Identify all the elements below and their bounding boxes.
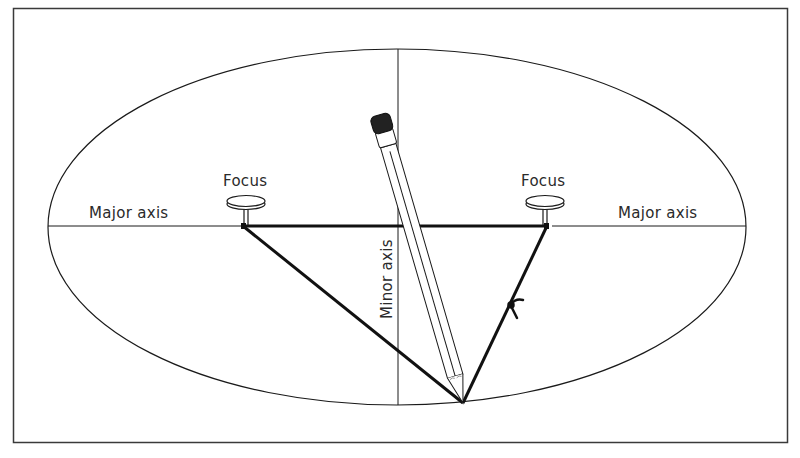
minor-axis-label: Minor axis xyxy=(378,239,396,319)
ellipse-construction-diagram: Focus Focus Major axis Major axis Minor … xyxy=(0,0,800,458)
major-axis-left-label: Major axis xyxy=(89,204,168,222)
major-axis-right-label: Major axis xyxy=(618,204,697,222)
focus-right-label: Focus xyxy=(521,172,565,190)
focus-left-label: Focus xyxy=(223,172,267,190)
right-focus-pin-icon xyxy=(526,196,564,230)
string-right-to-pencil xyxy=(463,228,546,403)
left-focus-pin-icon xyxy=(227,196,265,230)
string-knot-icon xyxy=(509,300,524,319)
